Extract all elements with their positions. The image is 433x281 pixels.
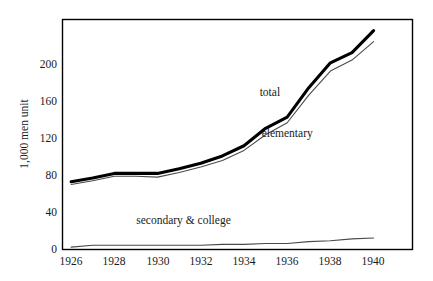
y-tick-label: 0 — [51, 243, 57, 255]
x-tick-label: 1936 — [276, 255, 299, 267]
y-tick-label: 120 — [40, 132, 58, 144]
series-annotation-elementary: elementary — [262, 127, 313, 140]
series-annotation-secondary-college: secondary & college — [136, 214, 231, 227]
series-line-secondary-college — [71, 238, 373, 247]
x-tick-label: 1940 — [362, 255, 385, 267]
y-axis-tick-labels: 0 40 80 120 160 200 — [40, 58, 58, 255]
y-tick-label: 200 — [40, 58, 58, 70]
y-axis-title: 1,000 men unit — [18, 99, 31, 169]
x-axis-tick-labels: 1926 1928 1930 1932 1934 1936 1938 1940 — [60, 255, 385, 267]
y-tick-label: 80 — [46, 169, 58, 181]
x-tick-label: 1926 — [60, 255, 83, 267]
x-tick-label: 1938 — [319, 255, 342, 267]
x-tick-label: 1930 — [147, 255, 170, 267]
series-line-total — [71, 31, 373, 182]
line-chart-canvas: 0 40 80 120 160 200 1,000 men unit 1926 … — [0, 0, 433, 281]
x-tick-label: 1932 — [190, 255, 213, 267]
plot-frame — [63, 20, 413, 250]
y-tick-label: 160 — [40, 95, 58, 107]
x-tick-label: 1934 — [233, 255, 256, 267]
series-annotation-total: total — [260, 86, 280, 98]
x-tick-label: 1928 — [103, 255, 126, 267]
chart-figure: 0 40 80 120 160 200 1,000 men unit 1926 … — [0, 0, 433, 281]
y-tick-label: 40 — [46, 206, 58, 218]
